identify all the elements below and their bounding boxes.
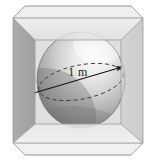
figure-container: 1 m bbox=[0, 0, 156, 162]
cube-top-inner-bevel bbox=[13, 18, 143, 40]
diameter-label: 1 m bbox=[61, 66, 95, 79]
cube-bottom-face bbox=[13, 143, 143, 155]
sphere-in-cube-illustration bbox=[0, 0, 156, 162]
cube-top-face bbox=[13, 6, 143, 18]
cube-bottom-inner-bevel bbox=[13, 124, 143, 143]
